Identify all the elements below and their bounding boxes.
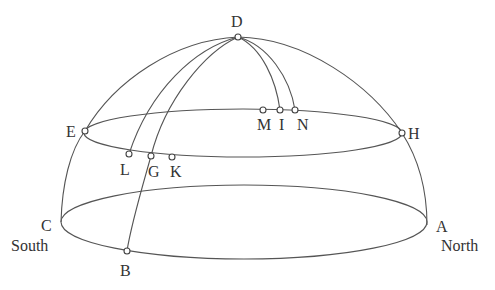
arc-d-to-l: [129, 37, 238, 154]
label-a: A: [436, 218, 448, 235]
hemisphere-diagram: D E H M I N L G K C South A North B: [0, 0, 495, 290]
point-h: [399, 130, 405, 136]
label-n: N: [297, 116, 309, 133]
base-ellipse: [61, 185, 427, 259]
label-north: North: [441, 237, 478, 254]
point-b: [124, 248, 130, 254]
label-g: G: [148, 163, 160, 180]
middle-ellipse: [84, 109, 402, 157]
point-d: [235, 34, 241, 40]
label-c: C: [41, 217, 52, 234]
point-m: [260, 107, 266, 113]
label-e: E: [66, 123, 76, 140]
point-k: [169, 154, 175, 160]
arc-d-to-n: [238, 37, 295, 110]
label-south: South: [11, 237, 48, 254]
label-i: I: [279, 116, 284, 133]
point-l: [126, 151, 132, 157]
dome-outline: [61, 37, 427, 225]
point-i: [277, 107, 283, 113]
label-b: B: [120, 262, 131, 279]
label-d: D: [231, 13, 243, 30]
point-g: [148, 153, 154, 159]
point-n: [292, 107, 298, 113]
label-k: K: [170, 163, 182, 180]
point-e: [82, 128, 88, 134]
label-h: H: [408, 125, 420, 142]
label-m: M: [257, 116, 271, 133]
label-l: L: [120, 161, 130, 178]
